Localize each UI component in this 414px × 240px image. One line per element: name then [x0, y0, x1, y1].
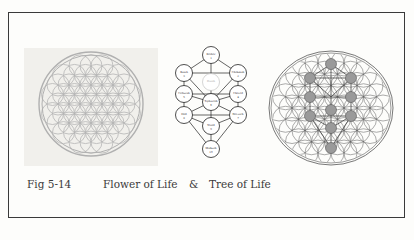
overlay-node [326, 123, 337, 134]
sephirah-node-netzach: Netzach7 [230, 107, 247, 124]
svg-text:Netzach: Netzach [233, 113, 244, 116]
overlay-node [346, 92, 357, 103]
svg-text:Yesod: Yesod [206, 124, 215, 127]
caption-flower-of-life: Flower of Life [103, 178, 178, 190]
svg-text:Chesed: Chesed [233, 92, 243, 95]
sephirah-node-binah: Binah3 [176, 65, 193, 82]
overlay-node [346, 111, 357, 122]
sephirah-node-hod: Hod8 [176, 107, 193, 124]
svg-text:10: 10 [209, 151, 213, 154]
sephirah-node-kether: Kether1 [203, 47, 220, 64]
overlay-node [326, 105, 337, 116]
svg-text:Chokmah: Chokmah [232, 71, 245, 74]
sephirah-node-malkuth: Malkuth10 [203, 141, 220, 158]
sephirah-node-tiphareth: Tiphareth6 [203, 94, 220, 111]
sephirah-node-daath: Daath [203, 74, 220, 91]
flower-with-tree-overlay-diagram [266, 50, 396, 168]
caption-tree-of-life: Tree of Life [209, 178, 271, 190]
tree-of-life-diagram: Kether1Binah3Chokmah2DaathGeburah5Chesed… [172, 46, 250, 164]
overlay-node [305, 73, 316, 84]
overlay-node [305, 111, 316, 122]
flower-of-life-diagram [24, 48, 158, 166]
svg-text:Hod: Hod [181, 113, 187, 116]
svg-text:Tiphareth: Tiphareth [205, 100, 218, 103]
sephirah-node-geburah: Geburah5 [176, 86, 193, 103]
svg-text:Geburah: Geburah [178, 92, 190, 95]
svg-text:Malkuth: Malkuth [206, 147, 217, 150]
svg-text:Kether: Kether [207, 53, 217, 56]
figure-number: Fig 5-14 [27, 178, 71, 190]
overlay-node [326, 143, 337, 154]
sephirah-node-chokmah: Chokmah2 [230, 65, 247, 82]
overlay-node [346, 73, 357, 84]
overlay-node [326, 59, 337, 70]
svg-text:Daath: Daath [207, 80, 215, 83]
caption-ampersand: & [189, 178, 198, 190]
svg-text:Binah: Binah [180, 71, 188, 74]
sephirah-node-chesed: Chesed4 [230, 86, 247, 103]
overlay-node [305, 92, 316, 103]
sephirah-node-yesod: Yesod9 [203, 118, 220, 135]
